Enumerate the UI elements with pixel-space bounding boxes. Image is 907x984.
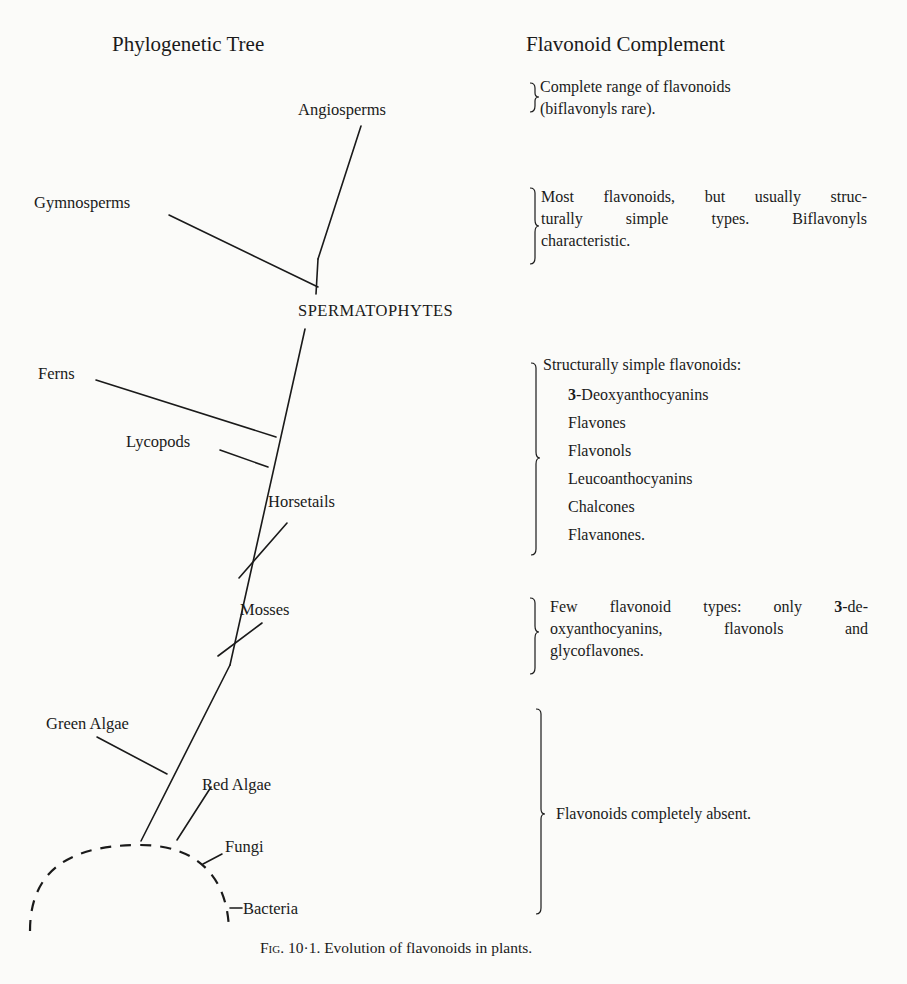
complement-text: Few flavonoid types: only 3-de-	[550, 596, 868, 618]
fern-branch	[96, 380, 276, 437]
brace-angiosperms	[530, 83, 539, 112]
complement-intro: Structurally simple flavonoids:	[543, 354, 741, 376]
figure-caption: Fig. 10·1. Evolution of flavonoids in pl…	[260, 939, 532, 957]
caption-number: 10·1.	[288, 939, 320, 956]
origin-dashed-arc	[30, 845, 229, 931]
label-angiosperms: Angiosperms	[298, 100, 386, 120]
flavonoid-list: 3-Deoxyanthocyanins Flavones Flavonols L…	[543, 384, 741, 546]
flavonoid-list-item: Flavones	[568, 412, 741, 434]
flavonoid-list-item: Leucoanthocyanins	[568, 468, 741, 490]
flavonoid-list-item: Chalcones	[568, 496, 741, 518]
complement-angiosperms: Complete range of flavonoids (biflavonyl…	[540, 76, 731, 120]
brace-gymnosperms	[530, 188, 539, 264]
complement-text: oxyanthocyanins, flavonols and	[550, 618, 868, 640]
complement-gymnosperms: Most flavonoids, but usually struc- tura…	[541, 186, 867, 252]
flavonoid-list-item: 3-Deoxyanthocyanins	[568, 384, 741, 406]
label-ferns: Ferns	[38, 364, 75, 384]
spermatophyte-node	[316, 259, 318, 294]
caption-label: Fig.	[260, 939, 284, 956]
complement-text: (biflavonyls rare).	[540, 98, 731, 120]
lower-trunk	[141, 665, 230, 841]
label-spermatophytes: SPERMATOPHYTES	[298, 301, 453, 321]
complement-algae-fungi-bacteria: Flavonoids completely absent.	[556, 803, 751, 825]
gymnosperm-branch	[169, 215, 318, 287]
complement-text: Complete range of flavonoids	[540, 76, 731, 98]
complement-mosses: Few flavonoid types: only 3-de- oxyantho…	[550, 596, 868, 662]
heading-flavonoid-complement: Flavonoid Complement	[526, 32, 725, 57]
phylogenetic-tree-lines	[0, 0, 907, 984]
complement-text: Most flavonoids, but usually struc-	[541, 186, 867, 208]
label-red-algae: Red Algae	[202, 775, 271, 795]
heading-phylogenetic-tree: Phylogenetic Tree	[112, 32, 264, 57]
brace-lower-vascular	[531, 363, 540, 555]
angiosperm-branch	[318, 126, 361, 259]
complement-text: characteristic.	[541, 230, 867, 252]
label-fungi: Fungi	[225, 837, 264, 857]
label-gymnosperms: Gymnosperms	[34, 193, 130, 213]
lycopod-branch	[220, 450, 268, 467]
fungi-branch	[203, 854, 222, 864]
caption-text: Evolution of flavonoids in plants.	[324, 939, 532, 956]
label-horsetails: Horsetails	[268, 492, 335, 512]
complement-text: glycoflavones.	[550, 640, 868, 662]
brace-mosses	[530, 598, 539, 674]
label-green-algae: Green Algae	[46, 714, 129, 734]
label-mosses: Mosses	[240, 600, 290, 620]
flavonoid-list-item: Flavanones.	[568, 524, 741, 546]
label-bacteria: Bacteria	[243, 899, 298, 919]
complement-lower-vascular: Structurally simple flavonoids: 3-Deoxya…	[543, 354, 741, 546]
horsetail-branch	[239, 523, 287, 578]
label-lycopods: Lycopods	[126, 432, 190, 452]
complement-text: turally simple types. Biflavonyls	[541, 208, 867, 230]
brace-algae-fungi-bacteria	[536, 709, 545, 914]
green-algae-branch	[97, 737, 167, 774]
flavonoid-list-item: Flavonols	[568, 440, 741, 462]
moss-branch	[218, 623, 262, 656]
